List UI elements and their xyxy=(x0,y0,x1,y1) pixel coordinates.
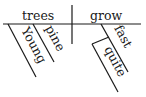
predicate-word: grow xyxy=(90,8,123,23)
modifier-quite: quite xyxy=(101,43,129,79)
quite-connector-line xyxy=(92,37,109,44)
sentence-diagram: trees grow Young pine fast quite xyxy=(0,0,146,97)
subject-word: trees xyxy=(22,8,54,23)
